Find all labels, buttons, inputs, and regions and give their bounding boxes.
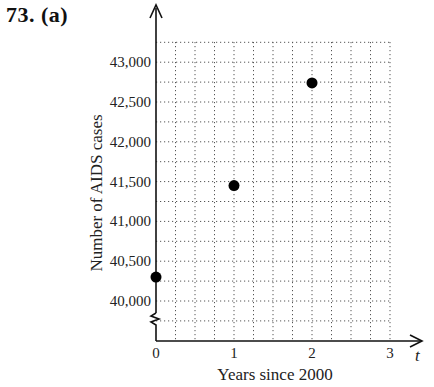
- data-point: [151, 272, 162, 283]
- axes: [150, 5, 422, 347]
- x-tick-label: 3: [386, 345, 394, 361]
- data-points: [151, 77, 318, 282]
- data-point: [229, 180, 240, 191]
- x-variable-label: t: [415, 346, 421, 365]
- x-axis-title: Years since 2000: [217, 365, 332, 384]
- data-point: [307, 77, 318, 88]
- x-tick-label: 2: [308, 345, 316, 361]
- y-tick-label: 40,500: [110, 253, 151, 269]
- y-tick-label: 40,000: [110, 293, 151, 309]
- grid-lines: [156, 42, 390, 341]
- y-tick-labels: 40,00040,50041,00041,50042,00042,50043,0…: [110, 54, 151, 309]
- x-tick-label: 1: [230, 345, 238, 361]
- x-tick-label: 0: [152, 345, 160, 361]
- y-tick-label: 43,000: [110, 54, 151, 70]
- scatter-chart: 40,00040,50041,00041,50042,00042,50043,0…: [0, 0, 434, 387]
- y-axis-break: [151, 313, 159, 341]
- y-tick-label: 41,500: [110, 174, 151, 190]
- y-tick-label: 41,000: [110, 213, 151, 229]
- y-tick-label: 42,500: [110, 94, 151, 110]
- y-tick-label: 42,000: [110, 134, 151, 150]
- x-tick-labels: 0123: [152, 345, 394, 361]
- y-axis-title: Number of AIDS cases: [87, 114, 106, 271]
